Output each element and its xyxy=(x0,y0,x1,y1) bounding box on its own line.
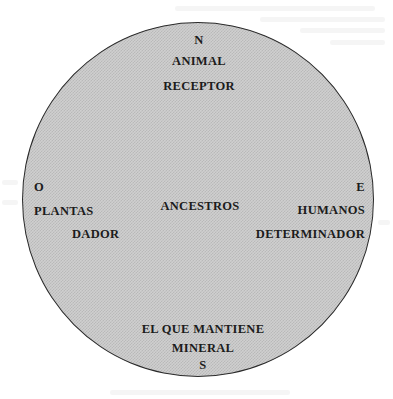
east-direction-label: E xyxy=(356,180,365,194)
west-direction-label: O xyxy=(34,180,44,194)
center-label: ANCESTROS xyxy=(160,199,239,213)
north-primary-label: ANIMAL xyxy=(172,54,226,68)
east-secondary-label: DETERMINADOR xyxy=(256,227,365,241)
north-secondary-label: RECEPTOR xyxy=(163,79,235,93)
diagram-canvas: N ANIMAL RECEPTOR O PLANTAS DADOR ANCEST… xyxy=(0,0,393,399)
south-primary-label: EL QUE MANTIENE xyxy=(142,322,265,336)
east-primary-label: HUMANOS xyxy=(298,203,365,217)
bleed-through-line xyxy=(175,6,375,11)
west-secondary-label: DADOR xyxy=(72,227,119,241)
bleed-through-line xyxy=(110,390,290,395)
bleed-through-line xyxy=(330,40,385,45)
bleed-through-line xyxy=(300,28,385,33)
bleed-through-line xyxy=(378,220,390,225)
south-direction-label: S xyxy=(199,358,206,372)
bleed-through-line xyxy=(2,200,18,205)
north-direction-label: N xyxy=(194,33,203,47)
bleed-through-line xyxy=(260,17,385,22)
south-secondary-label: MINERAL xyxy=(172,341,235,355)
bleed-through-line xyxy=(2,180,18,185)
west-primary-label: PLANTAS xyxy=(34,204,94,218)
